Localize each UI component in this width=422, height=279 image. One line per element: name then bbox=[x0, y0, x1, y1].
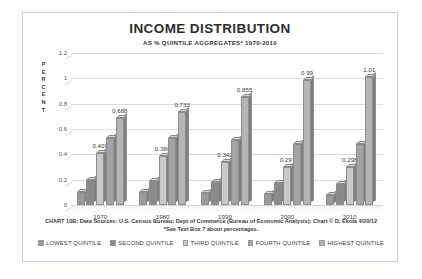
y-axis-title-letter: E bbox=[39, 91, 48, 99]
bar-side bbox=[186, 107, 189, 202]
bar-face bbox=[326, 195, 334, 206]
y-axis-title-letter: C bbox=[39, 84, 48, 92]
bar-group bbox=[139, 53, 186, 205]
chart-container: INCOME DISTRIBUTION AS % QUINTILE AGGREG… bbox=[22, 12, 398, 262]
chart-plot-bars: 0.4090.6880.3880.7330.3420.8550.2970.990… bbox=[71, 53, 383, 205]
legend-item[interactable]: THIRD QUINTILE bbox=[183, 240, 239, 246]
bar-face bbox=[293, 144, 301, 205]
bar-face bbox=[201, 193, 209, 205]
bar bbox=[149, 181, 157, 205]
bar-side bbox=[249, 92, 252, 202]
bar bbox=[106, 138, 114, 205]
bar bbox=[283, 167, 291, 205]
bar bbox=[293, 144, 301, 205]
y-axis-tick: 1.2 bbox=[51, 50, 67, 56]
y-axis-title-letter: T bbox=[39, 107, 48, 115]
bar bbox=[168, 138, 176, 205]
bar-face bbox=[159, 156, 167, 205]
legend-item[interactable]: HIGHEST QUINTILE bbox=[319, 240, 383, 246]
bar-group bbox=[201, 53, 248, 205]
bar bbox=[221, 162, 229, 205]
bar bbox=[159, 156, 167, 205]
legend-label: FOURTH QUINTILE bbox=[256, 240, 311, 246]
bar-face bbox=[336, 184, 344, 205]
bar-face bbox=[365, 77, 373, 205]
bar-group bbox=[264, 53, 311, 205]
bar bbox=[303, 80, 311, 205]
bar bbox=[86, 180, 94, 205]
y-axis-tick: 0.2 bbox=[51, 176, 67, 182]
chart-page: INCOME DISTRIBUTION AS % QUINTILE AGGREG… bbox=[0, 0, 422, 279]
bar bbox=[365, 77, 373, 205]
legend-swatch bbox=[38, 240, 44, 246]
bar-face bbox=[149, 181, 157, 205]
bar-face bbox=[96, 153, 104, 205]
y-axis-tick: 1 bbox=[51, 75, 67, 81]
legend-swatch bbox=[183, 240, 189, 246]
bar-face bbox=[77, 192, 85, 205]
y-axis-title: PERCENT bbox=[39, 61, 48, 114]
legend-swatch bbox=[248, 240, 254, 246]
bar-face bbox=[264, 194, 272, 205]
bar bbox=[231, 140, 239, 205]
bar-face bbox=[106, 138, 114, 205]
y-axis-title-letter: R bbox=[39, 76, 48, 84]
bar bbox=[96, 153, 104, 205]
bar-side bbox=[373, 72, 376, 202]
bar bbox=[264, 194, 272, 205]
bar bbox=[77, 192, 85, 205]
bar-face bbox=[241, 97, 249, 205]
legend-item[interactable]: LOWEST QUINTILE bbox=[38, 240, 101, 246]
bar-side bbox=[124, 113, 127, 202]
bar-face bbox=[231, 140, 239, 205]
y-axis-title-letter: P bbox=[39, 61, 48, 69]
legend-item[interactable]: SECOND QUINTILE bbox=[110, 240, 173, 246]
chart-legend: LOWEST QUINTILESECOND QUINTILETHIRD QUIN… bbox=[29, 240, 393, 246]
bar bbox=[178, 112, 186, 205]
bar-face bbox=[283, 167, 291, 205]
legend-swatch bbox=[319, 240, 325, 246]
y-axis-title-letter: N bbox=[39, 99, 48, 107]
bar bbox=[201, 193, 209, 205]
bar-side bbox=[311, 75, 314, 202]
chart-footnote: CHART 10B; Data Sources: U.S. Census Bur… bbox=[43, 218, 379, 233]
chart-subtitle: AS % QUINTILE AGGREGATES* 1970-2010 bbox=[23, 39, 397, 46]
y-axis-tick: 0 bbox=[51, 202, 67, 208]
legend-swatch bbox=[110, 240, 116, 246]
bar bbox=[346, 167, 354, 205]
bar bbox=[116, 118, 124, 205]
bar-face bbox=[168, 138, 176, 205]
bar bbox=[336, 184, 344, 205]
bar-group bbox=[77, 53, 124, 205]
bar bbox=[274, 183, 282, 205]
legend-label: THIRD QUINTILE bbox=[191, 240, 239, 246]
y-axis-tick-labels: 1.210.80.60.40.20 bbox=[49, 53, 67, 211]
bar-face bbox=[356, 144, 364, 205]
bar-group bbox=[326, 53, 373, 205]
y-axis-title-letter: E bbox=[39, 69, 48, 77]
bar bbox=[326, 195, 334, 206]
legend-label: LOWEST QUINTILE bbox=[46, 240, 101, 246]
y-axis-tick: 0.4 bbox=[51, 151, 67, 157]
bar-face bbox=[346, 167, 354, 205]
bar-face bbox=[178, 112, 186, 205]
bar-face bbox=[86, 180, 94, 205]
bar bbox=[139, 192, 147, 205]
chart-title: INCOME DISTRIBUTION bbox=[23, 21, 397, 36]
bar-face bbox=[139, 192, 147, 205]
bar-face bbox=[221, 162, 229, 205]
legend-item[interactable]: FOURTH QUINTILE bbox=[248, 240, 311, 246]
bar-face bbox=[303, 80, 311, 205]
chart-floor bbox=[71, 205, 383, 213]
bar bbox=[241, 97, 249, 205]
bar-face bbox=[274, 183, 282, 205]
bar-face bbox=[116, 118, 124, 205]
y-axis-tick: 0.6 bbox=[51, 126, 67, 132]
legend-label: SECOND QUINTILE bbox=[118, 240, 173, 246]
y-axis-tick: 0.8 bbox=[51, 100, 67, 106]
bar bbox=[211, 182, 219, 205]
bar-face bbox=[211, 182, 219, 205]
bar bbox=[356, 144, 364, 205]
legend-label: HIGHEST QUINTILE bbox=[327, 240, 383, 246]
